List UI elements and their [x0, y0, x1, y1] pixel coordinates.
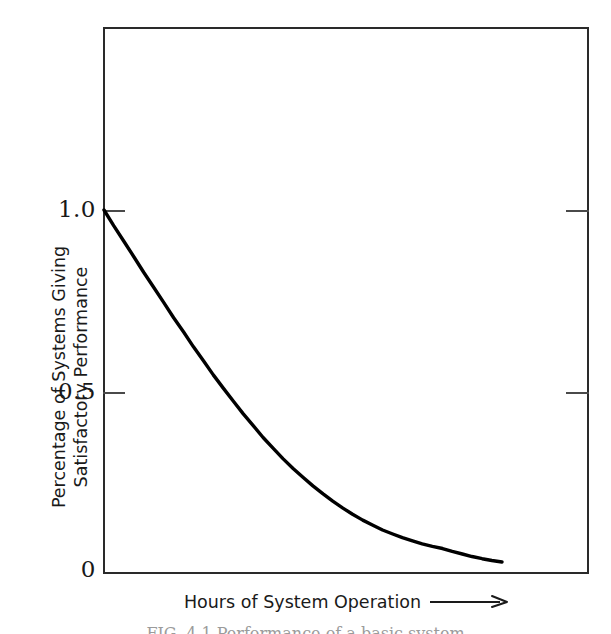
x-axis-title-label: Hours of System Operation: [184, 592, 421, 612]
x-axis-title: Hours of System Operation: [103, 592, 589, 612]
figure-caption: FIG. 4.1 Performance of a basic system: [0, 624, 611, 634]
right-arrow-icon: [430, 594, 508, 610]
figure-container: 1.0 0.5 0 Percentage of Systems Giving S…: [0, 0, 611, 634]
plot-frame: [103, 27, 589, 574]
y-tick-mark-1.0-left: [103, 210, 125, 212]
y-axis-title-line1: Percentage of Systems Giving: [48, 167, 70, 587]
y-axis-title: Percentage of Systems Giving Satisfactor…: [48, 167, 92, 587]
y-tick-mark-1.0-right: [566, 210, 589, 212]
y-axis-title-line2: Satisfactory Performance: [70, 167, 92, 587]
y-tick-mark-0.5-left: [103, 392, 125, 394]
y-tick-mark-0.5-right: [566, 392, 589, 394]
